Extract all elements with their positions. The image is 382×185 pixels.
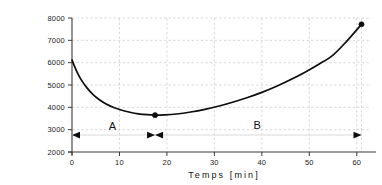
viscosity-curve bbox=[72, 24, 362, 115]
grid-lines bbox=[72, 18, 371, 152]
axis-lines bbox=[68, 18, 376, 155]
viscosity-chart-figure: 2000300040005000600070008000 01020304050… bbox=[0, 0, 382, 185]
x-tick-label: 50 bbox=[305, 158, 314, 167]
y-tick-label: 4000 bbox=[48, 103, 66, 112]
x-tick-label: 0 bbox=[70, 158, 74, 167]
span-arrow-left bbox=[155, 132, 163, 139]
y-tick-label: 6000 bbox=[48, 58, 66, 67]
y-tick-label: 8000 bbox=[48, 14, 66, 23]
region-label-a: A bbox=[109, 120, 117, 132]
chart-canvas: 2000300040005000600070008000 01020304050… bbox=[0, 0, 382, 185]
x-axis-title: Temps [min] bbox=[188, 170, 260, 180]
y-tick-label: 7000 bbox=[48, 36, 66, 45]
span-arrow-right bbox=[354, 132, 362, 139]
span-arrow-right bbox=[147, 132, 155, 139]
data-series-curve bbox=[72, 24, 362, 115]
x-axis-ticks: 0102030405060 bbox=[70, 152, 361, 167]
data-marker-minimum bbox=[152, 113, 157, 118]
x-tick-label: 20 bbox=[163, 158, 172, 167]
x-tick-label: 60 bbox=[352, 158, 361, 167]
data-point-markers bbox=[152, 22, 364, 118]
x-tick-label: 10 bbox=[115, 158, 124, 167]
y-axis-ticks: 2000300040005000600070008000 bbox=[48, 14, 73, 157]
y-tick-label: 5000 bbox=[48, 81, 66, 90]
y-tick-label: 2000 bbox=[48, 148, 66, 157]
x-tick-label: 40 bbox=[257, 158, 266, 167]
data-marker-endpoint bbox=[359, 22, 364, 27]
region-label-b: B bbox=[253, 119, 260, 131]
y-tick-label: 3000 bbox=[48, 125, 66, 134]
x-tick-label: 30 bbox=[210, 158, 219, 167]
region-annotations: AB bbox=[72, 119, 362, 139]
span-arrow-left bbox=[72, 132, 80, 139]
